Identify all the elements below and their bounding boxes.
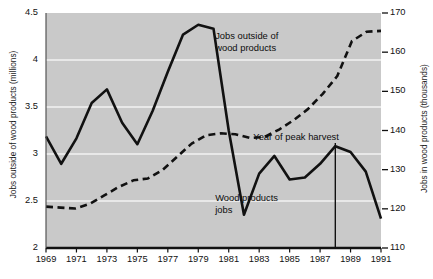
x-axis-tick: 1989 [334, 254, 368, 264]
y-axis-right-tick: 140 [390, 125, 420, 135]
annotation-line: wood products [215, 42, 278, 54]
y-axis-right-tick: 150 [390, 85, 420, 95]
y-axis-right-tick: 130 [390, 164, 420, 174]
x-axis-tick: 1977 [151, 254, 185, 264]
x-axis-tick: 1971 [59, 254, 93, 264]
y-axis-left-tick: 2 [12, 242, 38, 252]
x-axis-tick: 1969 [29, 254, 63, 264]
x-axis-tick: 1973 [90, 254, 124, 264]
annotation-line: jobs [215, 204, 278, 216]
y-axis-left-tick: 4 [12, 54, 38, 64]
x-axis-tick: 1981 [212, 254, 246, 264]
x-axis-tick: 1979 [181, 254, 215, 264]
y-axis-left-tick: 3.5 [12, 101, 38, 111]
x-axis-tick: 1983 [242, 254, 276, 264]
x-axis-tick: 1975 [120, 254, 154, 264]
annotation-line: Year of peak harvest [253, 131, 339, 143]
y-axis-left-tick: 4.5 [12, 7, 38, 17]
y-axis-left-tick: 2.5 [12, 195, 38, 205]
y-axis-left-tick: 3 [12, 148, 38, 158]
x-axis-tick: 1991 [364, 254, 398, 264]
x-axis-tick: 1987 [303, 254, 337, 264]
y-axis-right-tick: 120 [390, 203, 420, 213]
year-of-peak-harvest-label: Year of peak harvest [253, 131, 339, 143]
annotation-line: Wood products [215, 192, 278, 204]
x-axis-tick: 1985 [273, 254, 307, 264]
chart-figure: Jobs outside of wood products (millions)… [0, 0, 433, 279]
annotation-line: Jobs outside of [215, 30, 278, 42]
wood-products-jobs-label: Wood productsjobs [215, 192, 278, 215]
y-axis-right-tick: 170 [390, 7, 420, 17]
y-axis-right-title: Jobs in wood products (thousands) [420, 54, 429, 204]
y-axis-left-title: Jobs outside of wood products (millions) [9, 50, 18, 200]
y-axis-right-tick: 160 [390, 46, 420, 56]
y-axis-right-tick: 110 [390, 242, 420, 252]
jobs-outside-wood-products-label: Jobs outside ofwood products [215, 30, 278, 53]
